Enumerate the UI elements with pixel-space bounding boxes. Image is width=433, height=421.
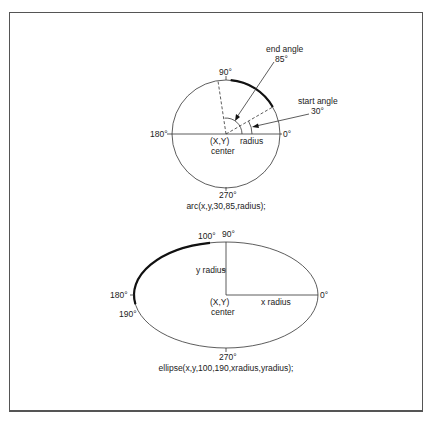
end-angle-arrowhead [235, 114, 240, 121]
dashed-radius-start [226, 107, 273, 134]
arc-diagram: 90° 180° 0° 270° end angle 85° start ang… [150, 44, 338, 211]
label-90: 90° [222, 229, 235, 239]
start-angle-title: start angle [298, 96, 338, 106]
arc-segment [231, 80, 273, 107]
arc-caption: arc(x,y,30,85,radius); [186, 201, 265, 211]
start-angle-leader [256, 114, 309, 126]
dashed-radius-end [218, 81, 226, 134]
end-angle-title: end angle [266, 44, 304, 54]
center-word-label: center [211, 307, 235, 317]
ellipse-diagram: 100° 90° 180° 190° 0° 270° y radius x ra… [110, 229, 328, 373]
label-270: 270° [219, 190, 237, 200]
label-90: 90° [219, 67, 232, 77]
label-190: 190° [119, 309, 137, 319]
start-angle-value: 30° [311, 106, 324, 116]
ellipse-caption: ellipse(x,y,100,190,xradius,yradius); [159, 363, 294, 373]
arc-ellipse-diagram: 90° 180° 0° 270° end angle 85° start ang… [0, 0, 433, 421]
end-angle-leader [237, 62, 274, 117]
radius-label: radius [240, 136, 263, 146]
end-angle-value: 85° [275, 54, 288, 64]
label-180: 180° [110, 290, 128, 300]
y-radius-label: y radius [196, 265, 226, 275]
label-100: 100° [198, 231, 216, 241]
x-radius-label: x radius [261, 297, 291, 307]
center-word-label: center [211, 146, 235, 156]
center-xy-label: (X,Y) [210, 297, 230, 307]
label-0: 0° [283, 129, 291, 139]
start-angle-marker [249, 121, 253, 134]
label-180: 180° [150, 129, 168, 139]
label-0: 0° [320, 290, 328, 300]
label-270: 270° [219, 352, 237, 362]
start-angle-arrowhead [252, 124, 259, 129]
center-xy-label: (X,Y) [210, 136, 230, 146]
